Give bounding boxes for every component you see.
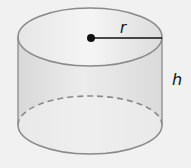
center-dot: [87, 34, 95, 42]
cylinder-diagram: r h: [0, 0, 191, 168]
radius-label: r: [120, 19, 127, 37]
height-label: h: [172, 70, 182, 89]
